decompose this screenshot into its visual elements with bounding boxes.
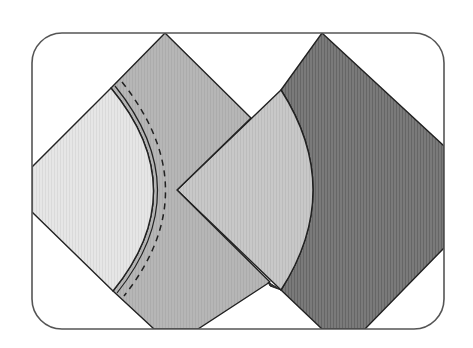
quilt-diagram [0,0,473,348]
diagram-canvas [0,0,473,348]
pieces-group [32,33,444,329]
